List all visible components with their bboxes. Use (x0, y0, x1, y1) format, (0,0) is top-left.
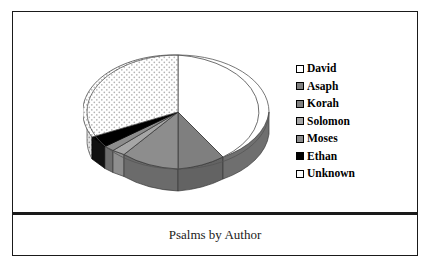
legend-label-david: David (307, 63, 336, 75)
legend-label-moses: Moses (307, 133, 338, 145)
legend-swatch-ethan-icon (296, 152, 304, 160)
caption-bar: Psalms by Author (13, 215, 417, 255)
pie-svg (83, 46, 273, 196)
legend-item-korah: Korah (296, 95, 411, 113)
legend-item-unknown: Unknown (296, 165, 411, 183)
legend-swatch-solomon-icon (296, 117, 304, 125)
slice-side-solomon (113, 151, 124, 177)
legend-label-solomon: Solomon (307, 116, 350, 128)
plot-region: David Asaph Korah Solomon Moses (13, 12, 417, 212)
legend-label-asaph: Asaph (307, 81, 338, 93)
legend-label-unknown: Unknown (307, 168, 355, 180)
chart-legend: David Asaph Korah Solomon Moses (296, 60, 411, 183)
chart-screenshot: David Asaph Korah Solomon Moses (0, 0, 431, 269)
legend-item-ethan: Ethan (296, 148, 411, 166)
legend-item-solomon: Solomon (296, 113, 411, 131)
legend-swatch-unknown-icon (296, 170, 304, 178)
chart-caption: Psalms by Author (169, 227, 261, 243)
slice-side-moses (105, 147, 113, 173)
legend-swatch-moses-icon (296, 135, 304, 143)
legend-item-moses: Moses (296, 130, 411, 148)
legend-swatch-david-icon (296, 65, 304, 73)
pie-chart (83, 46, 273, 196)
legend-swatch-korah-icon (296, 100, 304, 108)
legend-label-korah: Korah (307, 98, 339, 110)
legend-item-asaph: Asaph (296, 78, 411, 96)
legend-label-ethan: Ethan (307, 151, 337, 163)
legend-swatch-asaph-icon (296, 82, 304, 90)
legend-item-david: David (296, 60, 411, 78)
chart-frame: David Asaph Korah Solomon Moses (12, 11, 418, 256)
